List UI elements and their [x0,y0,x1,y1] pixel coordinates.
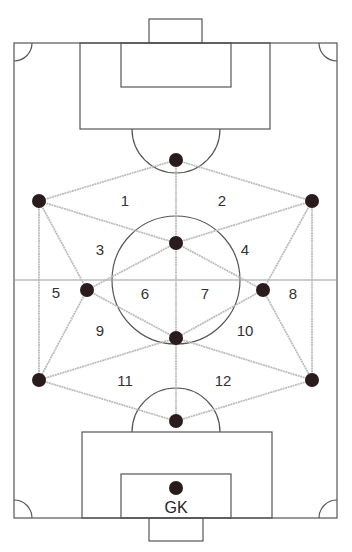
zone-label-9: 9 [96,322,104,339]
zone-label-11: 11 [117,372,133,389]
zone-label-5: 5 [52,284,60,301]
zone-label-6: 6 [141,285,149,302]
player-center-upper [169,236,183,250]
player-left-lower [32,373,46,387]
zone-label-10: 10 [237,322,254,339]
player-center-lower [169,331,183,345]
bottom-goal [149,518,203,541]
top-goal [149,19,202,43]
player-goalkeeper [169,481,183,495]
goalkeeper-label: GK [164,499,187,517]
player-bottom [169,414,183,428]
zone-label-8: 8 [289,285,297,302]
player-left-mid [80,283,94,297]
player-top [169,153,183,167]
field-svg [0,0,352,552]
zone-label-2: 2 [218,192,226,209]
corner-arc-tr [319,43,337,61]
zone-label-4: 4 [241,241,249,258]
connector-lines [39,160,312,421]
corner-arc-bl [14,500,32,518]
corner-arc-br [319,500,337,518]
zone-label-3: 3 [96,241,104,258]
player-right-lower [305,373,319,387]
top-goal-area [121,43,231,87]
player-right-mid [256,283,270,297]
zone-label-1: 1 [121,192,129,209]
player-right-upper [305,194,319,208]
player-left-upper [32,194,46,208]
zone-label-7: 7 [201,285,209,302]
corner-arc-tl [14,43,32,61]
zone-label-12: 12 [215,372,232,389]
soccer-field-diagram: 1 2 3 4 5 6 7 8 9 10 11 12 GK [0,0,352,552]
top-penalty-area [80,43,270,129]
